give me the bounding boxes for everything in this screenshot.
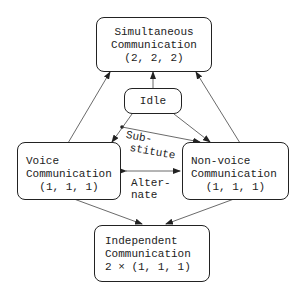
edge-voice-to-independent xyxy=(74,199,142,224)
node-independent-communication: Independent Communication 2 × (1, 1, 1) xyxy=(94,225,210,282)
node-line: Communication xyxy=(97,39,211,52)
edge-nonvoice-to-simultaneous xyxy=(196,72,240,143)
node-line: Idle xyxy=(125,95,181,108)
edge-voice-to-simultaneous xyxy=(68,72,110,143)
edge-label-line: nate xyxy=(131,189,171,201)
node-line: Communication xyxy=(105,248,209,261)
node-line: Communication xyxy=(26,168,120,181)
node-line: (1, 1, 1) xyxy=(191,181,288,194)
node-line: Voice xyxy=(26,155,120,168)
node-nonvoice-communication: Non-voice Communication (1, 1, 1) xyxy=(182,142,289,200)
node-voice-communication: Voice Communication (1, 1, 1) xyxy=(17,142,121,200)
node-line: Independent xyxy=(105,235,209,248)
node-line: Non-voice xyxy=(191,155,288,168)
node-line: (1, 1, 1) xyxy=(26,181,120,194)
edge-label-alternate: Alter- nate xyxy=(131,177,171,201)
node-line: Simultaneous xyxy=(97,26,211,39)
node-line: Communication xyxy=(191,168,288,181)
node-idle: Idle xyxy=(124,88,182,114)
edge-label-line: Alter- xyxy=(131,177,171,189)
node-line: 2 × (1, 1, 1) xyxy=(105,261,209,274)
node-simultaneous-communication: Simultaneous Communication (2, 2, 2) xyxy=(96,17,212,72)
node-line: (2, 2, 2) xyxy=(97,52,211,65)
edge-nonvoice-to-independent xyxy=(166,199,234,224)
